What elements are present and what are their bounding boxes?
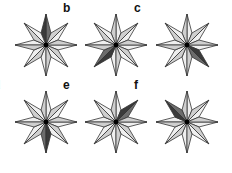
panel-f: f xyxy=(152,87,222,157)
panel-a: a xyxy=(11,10,81,80)
panel-c: c xyxy=(152,10,222,80)
panel-e: e xyxy=(81,87,151,157)
star-icon xyxy=(81,87,151,157)
star-icon xyxy=(152,10,222,80)
star-icon xyxy=(152,87,222,157)
panel-b: b xyxy=(81,10,151,80)
star-icon xyxy=(81,10,151,80)
panel-label: e xyxy=(63,79,70,91)
panel-label: c xyxy=(134,2,141,14)
panel-label: f xyxy=(134,79,138,91)
star-icon xyxy=(11,10,81,80)
star-icon xyxy=(11,87,81,157)
panel-label: b xyxy=(63,2,70,14)
panel-d: d xyxy=(11,87,81,157)
